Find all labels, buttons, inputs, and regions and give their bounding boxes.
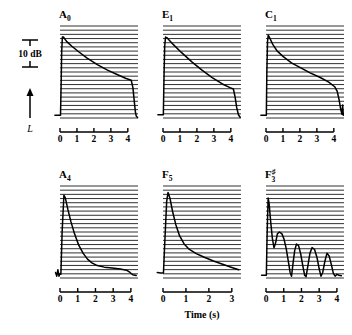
panel-A0: A001234 [55,8,138,144]
panel-label-subscript: 5 [169,174,173,183]
gridlines-A4 [60,186,138,278]
panel-label-F5: F5 [162,168,173,183]
panel-label-base: C [265,8,273,20]
x-axis-tick-label: 1 [281,294,286,304]
panel-label-A4: A4 [59,168,71,183]
x-axis-tick-label: 3 [108,134,113,144]
x-axis-tick-label: 2 [299,294,304,304]
level-arrow-head [27,88,34,96]
x-axis-tick-label: 3 [317,294,322,304]
decay-curve-figure: A001234E101234C101234A401234F50123F♯3012… [0,0,352,335]
panel-A4: A401234 [56,168,138,304]
panel-C1: C101234 [261,8,344,144]
gridlines-C1 [266,26,344,118]
x-axis-tick-label: 0 [161,134,166,144]
gridlines-A0 [60,26,138,118]
x-axis-tick-label: 0 [58,294,63,304]
figure-canvas: A001234E101234C101234A401234F50123F♯3012… [0,0,352,335]
x-axis-tick-label: 4 [228,134,233,144]
x-axis-tick-label: 4 [331,134,336,144]
x-axis-tick-label: 1 [184,294,189,304]
gridlines-E1 [163,26,241,118]
x-axis-tick-label: 0 [264,294,269,304]
gridlines-F5 [163,186,241,278]
panel-label-A0: A0 [59,8,71,23]
x-axis-tick-label: 2 [207,294,212,304]
x-axis-tick-label: 2 [298,134,303,144]
x-axis-tick-label: 1 [75,134,80,144]
x-axis-tick-label: 2 [93,294,98,304]
panel-label-subscript: 3 [271,175,275,184]
panel-label-E1: E1 [162,8,173,23]
gridlines-F#3 [266,186,344,278]
panel-label-subscript: 1 [169,14,173,23]
panel-F5: F50123 [157,168,241,304]
x-axis-tick-label: 3 [111,294,116,304]
x-axis-title: Time (s) [184,309,219,321]
panel-F#3: F♯301234 [262,167,344,304]
x-axis-tick-label: 4 [125,134,130,144]
x-axis-tick-label: 2 [92,134,97,144]
x-axis-tick-label: 4 [335,294,340,304]
level-axis-label: L [26,123,33,134]
x-axis-tick-label: 2 [195,134,200,144]
panel-label-base: E [162,8,169,20]
panel-E1: E101234 [158,8,241,144]
x-axis-tick-label: 0 [58,134,63,144]
x-axis-tick-label: 1 [281,134,286,144]
panel-label-C1: C1 [265,8,277,23]
x-axis-tick-label: 4 [129,294,134,304]
x-axis-tick-label: 3 [314,134,319,144]
scale-bar-label: 10 dB [18,49,42,59]
panel-label-base: A [59,168,67,180]
x-axis-tick-label: 0 [264,134,269,144]
x-axis-tick-label: 1 [178,134,183,144]
x-axis-tick-label: 3 [229,294,234,304]
panel-label-subscript: 4 [67,174,71,183]
panel-label-F#3: F♯3 [265,167,276,184]
panel-label-base: A [59,8,67,20]
x-axis-tick-label: 3 [211,134,216,144]
level-axis: 10 dBL [18,40,42,134]
curve-F#3 [262,198,342,277]
panel-label-subscript: 1 [273,14,277,23]
x-axis-tick-label: 0 [161,294,166,304]
x-axis-tick-label: 1 [75,294,80,304]
panel-label-subscript: 0 [67,14,71,23]
